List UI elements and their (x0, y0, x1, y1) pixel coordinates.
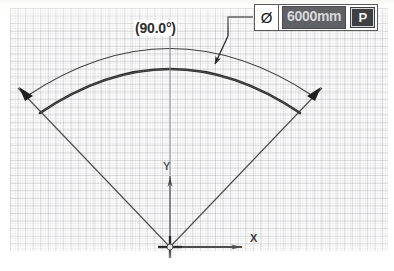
dimension-input-widget[interactable]: Ø 6000mm P (254, 4, 378, 31)
dimension-value-input[interactable]: 6000mm (282, 6, 346, 29)
dimension-leader-line (215, 17, 253, 64)
cad-geometry-canvas (0, 0, 394, 271)
cad-sketch-screenshot: (90.0°) X Y Ø 6000mm P (0, 0, 394, 271)
origin-marker[interactable] (158, 236, 182, 258)
y-axis-label: Y (163, 160, 170, 172)
diameter-symbol-icon: Ø (255, 5, 279, 30)
x-axis-label: X (250, 232, 257, 244)
angle-dimension-label[interactable]: (90.0°) (134, 20, 177, 36)
coordinate-axes (158, 176, 242, 258)
dimension-value-container[interactable]: 6000mm (279, 5, 349, 30)
page-caption (0, 260, 394, 270)
parameter-toggle-button[interactable]: P (350, 7, 375, 28)
